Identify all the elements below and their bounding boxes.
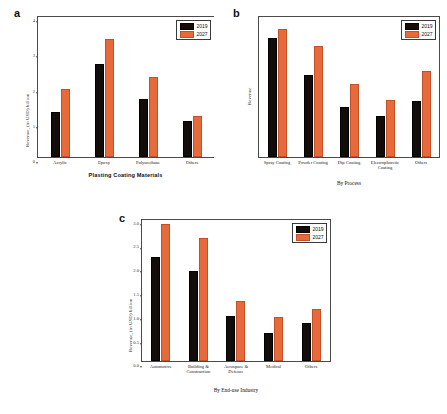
x-tick-label: Others (170, 157, 214, 165)
bar-2027 (386, 100, 395, 157)
legend-swatch-2019 (405, 23, 419, 30)
bar-2027 (161, 224, 170, 361)
legend-swatch-2019 (180, 23, 194, 30)
x-tick-label: Automotive (142, 361, 180, 375)
x-tick-label: Dip Coating (331, 157, 367, 171)
panel-c-ytick: 3.0 (133, 222, 142, 227)
bar-2027 (199, 238, 208, 361)
panel-c-legend: 2019 2027 (292, 223, 327, 243)
x-tick-label: Building & Construction (180, 361, 218, 375)
x-tick-label: Spray Coating (259, 157, 295, 171)
panel-c-ytick: 2.5 (133, 246, 142, 251)
legend-label-2027: 2027 (421, 31, 432, 37)
bar-group (126, 17, 170, 157)
panel-c-x-tick-labels: Automotive Building & Construction Aeros… (142, 361, 330, 375)
bar-2019 (268, 38, 277, 157)
bar-group (180, 220, 217, 361)
bar-group (367, 17, 403, 157)
bar-2027 (193, 116, 202, 157)
panel-b-plot-area: 2019 2027 Spray Coating Powder Coating D… (258, 16, 440, 158)
panel-c-letter: c (119, 212, 125, 224)
x-tick-label: Polyurethane (126, 157, 170, 165)
bar-2019 (304, 75, 313, 157)
legend-item-2027: 2027 (296, 234, 324, 241)
x-tick-label: Others (403, 157, 439, 171)
legend-label-2019: 2019 (196, 23, 207, 29)
legend-item-2019: 2019 (180, 23, 208, 30)
panel-a-x-axis-title: Plasting Coating Materials (37, 172, 214, 178)
bar-group (82, 17, 126, 157)
x-tick-label: Medical (255, 361, 293, 375)
legend-item-2019: 2019 (405, 23, 433, 30)
legend-label-2019: 2019 (312, 226, 323, 232)
legend-swatch-2027 (405, 31, 419, 38)
bar-group (38, 17, 82, 157)
bar-group (259, 17, 295, 157)
panel-b-legend: 2019 2027 (401, 20, 436, 40)
bar-2027 (274, 317, 283, 361)
panel-c-ytick: 0.5 (133, 341, 142, 346)
bar-2019 (412, 101, 421, 157)
panel-b: b Revenue (225, 0, 447, 200)
panel-b-x-tick-labels: Spray Coating Powder Coating Dip Coating… (259, 157, 439, 171)
bar-group (255, 220, 292, 361)
bar-2019 (340, 107, 349, 157)
panel-a-plot-area: 4 3 2 1 0 (37, 16, 214, 158)
bar-2019 (95, 64, 104, 157)
bar-2019 (189, 271, 198, 361)
legend-swatch-2019 (296, 226, 310, 233)
panel-a-x-tick-labels: Acrylic Epoxy Polyurethane Others (38, 157, 214, 165)
bar-2027 (312, 309, 321, 361)
x-tick-label: Acrylic (38, 157, 82, 165)
bar-2019 (151, 257, 160, 361)
bar-2019 (51, 112, 60, 157)
legend-item-2027: 2027 (405, 31, 433, 38)
panel-a: a Revenue, (in USD) billion 4 3 2 1 0 (0, 0, 225, 200)
bar-2019 (183, 121, 192, 157)
panel-c-plot-area: 3.0 2.5 2.0 1.5 1.0 0.5 0.0 (141, 219, 331, 362)
bar-2027 (422, 71, 431, 157)
bar-2027 (278, 29, 287, 157)
bar-group (142, 220, 179, 361)
panel-c-ytick: 2.0 (133, 269, 142, 274)
bar-2019 (376, 116, 385, 157)
panel-c-ytick: 0.0 (133, 364, 142, 369)
bar-group (331, 17, 367, 157)
panel-c-ytick: 1.5 (133, 293, 142, 298)
legend-label-2019: 2019 (421, 23, 432, 29)
bar-2019 (302, 323, 311, 361)
panel-b-x-axis-title: By Process (258, 180, 440, 186)
bar-2027 (236, 301, 245, 361)
legend-label-2027: 2027 (196, 31, 207, 37)
legend-swatch-2027 (180, 31, 194, 38)
bar-2019 (226, 316, 235, 361)
bar-2019 (139, 99, 148, 157)
x-tick-label: Epoxy (82, 157, 126, 165)
panel-c-ytick: 1.0 (133, 317, 142, 322)
bar-2027 (350, 84, 359, 158)
bar-2027 (105, 39, 114, 157)
legend-item-2019: 2019 (296, 226, 324, 233)
x-tick-label: Aerospace & Defence (217, 361, 255, 375)
legend-swatch-2027 (296, 234, 310, 241)
bar-2027 (314, 46, 323, 157)
bar-group (295, 17, 331, 157)
figure-container: a Revenue, (in USD) billion 4 3 2 1 0 (0, 0, 447, 414)
bar-group (217, 220, 254, 361)
bar-2019 (264, 333, 273, 361)
legend-label-2027: 2027 (312, 234, 323, 240)
panel-c-y-axis-label: Revenue, (in USD) billion (128, 299, 133, 352)
panel-b-letter: b (233, 7, 240, 19)
panel-a-y-axis-label: Revenue, (in USD) billion (25, 94, 30, 147)
panel-a-letter: a (14, 7, 20, 19)
panel-a-legend: 2019 2027 (176, 20, 211, 40)
bar-2027 (61, 89, 70, 157)
panel-c: c Revenue, (in USD) billion 3.0 2.5 2.0 … (95, 200, 375, 414)
x-tick-label: Electrophoretic Coating (367, 157, 403, 171)
x-tick-label: Powder Coating (295, 157, 331, 171)
panel-c-x-axis-title: By End-use Industry (141, 387, 331, 393)
bar-2027 (149, 77, 158, 158)
x-tick-label: Others (292, 361, 330, 375)
legend-item-2027: 2027 (180, 31, 208, 38)
panel-b-y-axis-label: Revenue (247, 88, 252, 105)
